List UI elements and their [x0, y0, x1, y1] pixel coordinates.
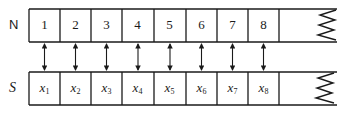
s-cell-3: x3 [91, 80, 122, 100]
n-cell-1: 1 [29, 17, 60, 33]
s-cell-1: x1 [29, 80, 60, 100]
s-cell-7: x7 [217, 80, 248, 100]
n-cell-7: 7 [217, 17, 248, 33]
n-cell-4: 4 [122, 17, 153, 33]
bottom-row-zigzag-break-icon [316, 73, 334, 103]
n-cell-6: 6 [186, 17, 217, 33]
n-cell-5: 5 [154, 17, 185, 33]
n-cell-8: 8 [248, 17, 279, 33]
s-cell-8: x8 [248, 80, 279, 100]
row-label-s: S [9, 80, 16, 96]
s-cell-5: x5 [154, 80, 185, 100]
correspondence-arrows [45, 44, 264, 70]
n-cell-2: 2 [60, 17, 91, 33]
s-cell-4: x4 [122, 80, 153, 100]
row-label-n: N [9, 17, 18, 33]
n-cell-3: 3 [91, 17, 122, 33]
top-row-zigzag-break-icon [318, 10, 336, 40]
bijection-diagram: N S 1 2 3 4 5 6 7 8 x1 x2 x3 x4 x5 x6 x7… [0, 0, 354, 114]
s-cell-6: x6 [186, 80, 217, 100]
s-cell-2: x2 [60, 80, 91, 100]
